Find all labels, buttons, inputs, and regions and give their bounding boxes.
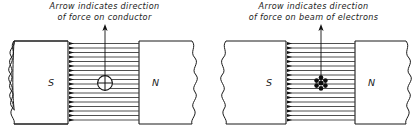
diagram-panel-electron-beam: Arrow indicates direction of force on be… (209, 0, 418, 135)
south-pole-piece (221, 41, 286, 124)
south-pole-label: S (266, 78, 272, 88)
north-pole-label: N (368, 78, 375, 88)
conductor-circled-cross-icon (98, 76, 113, 91)
force-arrow-up (318, 24, 323, 83)
south-pole-piece (9, 41, 68, 124)
force-arrow-up (102, 24, 107, 83)
physics-figure: Arrow indicates direction of force on co… (0, 0, 418, 135)
north-pole-piece (139, 41, 197, 124)
magnet-gap-graphic-electron-beam (209, 0, 418, 135)
diagram-panel-conductor: Arrow indicates direction of force on co… (0, 0, 209, 135)
field-line-arrowheads (69, 42, 74, 122)
field-line-arrowheads (287, 42, 292, 122)
magnet-gap-graphic-conductor (0, 0, 209, 135)
north-pole-label: N (152, 78, 159, 88)
north-pole-piece (355, 41, 411, 124)
south-pole-label: S (48, 78, 54, 88)
